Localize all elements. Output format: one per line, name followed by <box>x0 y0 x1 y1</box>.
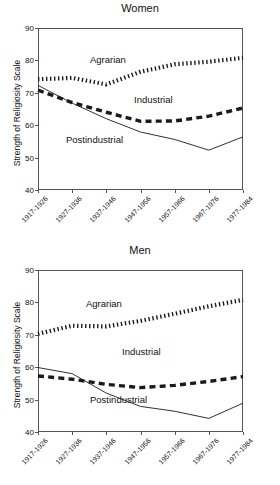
chart-panel-women: Women Strength of Religiosity Scale 9080… <box>0 0 280 242</box>
series-label-industrial-women: Industrial <box>134 94 173 105</box>
chart-panel-men: Men Strength of Religiosity Scale 908070… <box>0 242 280 485</box>
x-tick-label: 1977-1984 <box>225 437 254 466</box>
y-tick-label: 90 <box>25 24 34 33</box>
x-tick-label: 1977-1984 <box>225 195 254 224</box>
x-tick-mark <box>106 190 107 193</box>
x-tick-mark <box>72 190 73 193</box>
y-tick-label: 60 <box>25 363 34 372</box>
plot-area-women: 908070605040 1917-19261927-19361937-1946… <box>38 28 243 190</box>
y-tick-label: 80 <box>25 298 34 307</box>
x-tick-label: 1957-1966 <box>157 195 186 224</box>
x-tick-mark <box>106 432 107 435</box>
y-tick-label: 50 <box>25 395 34 404</box>
x-tick-mark <box>175 190 176 193</box>
series-label-agrarian-men: Agrarian <box>86 298 122 309</box>
x-tick-label: 1917-1926 <box>20 195 49 224</box>
x-tick-label: 1937-1946 <box>89 437 118 466</box>
x-tick-mark <box>209 190 210 193</box>
x-tick-label: 1947-1956 <box>123 437 152 466</box>
x-tick-mark <box>209 432 210 435</box>
plot-area-men: 908070605040 1917-19261927-19361937-1946… <box>38 270 243 432</box>
series-label-agrarian-women: Agrarian <box>90 54 126 65</box>
y-tick-label: 50 <box>25 153 34 162</box>
y-tick-label: 40 <box>25 186 34 195</box>
x-tick-mark <box>141 190 142 193</box>
y-tick-label: 70 <box>25 330 34 339</box>
series-label-industrial-men: Industrial <box>122 346 161 357</box>
x-tick-label: 1927-1936 <box>54 437 83 466</box>
chart-title-men: Men <box>0 244 280 256</box>
x-tick-mark <box>38 432 39 435</box>
y-tick-label: 60 <box>25 121 34 130</box>
x-tick-mark <box>243 190 244 193</box>
y-axis-label-men: Strength of Religiosity Scale <box>12 280 22 430</box>
x-tick-label: 1917-1926 <box>20 437 49 466</box>
x-tick-label: 1947-1956 <box>123 195 152 224</box>
y-tick-label: 90 <box>25 266 34 275</box>
y-tick-label: 70 <box>25 88 34 97</box>
x-tick-mark <box>141 432 142 435</box>
x-tick-label: 1967-1976 <box>191 195 220 224</box>
x-tick-mark <box>243 432 244 435</box>
y-tick-label: 80 <box>25 56 34 65</box>
series-agrarian <box>38 300 243 334</box>
series-label-postindustrial-men: Postindustrial <box>90 394 147 405</box>
x-tick-label: 1967-1976 <box>191 437 220 466</box>
series-postindustrial <box>38 368 243 419</box>
y-tick-label: 40 <box>25 428 34 437</box>
chart-title-women: Women <box>0 2 280 14</box>
x-tick-label: 1927-1936 <box>54 195 83 224</box>
x-tick-mark <box>175 432 176 435</box>
x-tick-mark <box>38 190 39 193</box>
y-axis-label-women: Strength of Religiosity Scale <box>12 38 22 188</box>
x-tick-label: 1957-1966 <box>157 437 186 466</box>
series-agrarian <box>38 58 243 85</box>
x-tick-mark <box>72 432 73 435</box>
series-industrial <box>38 376 243 388</box>
series-lines-women <box>38 28 243 190</box>
x-tick-label: 1937-1946 <box>89 195 118 224</box>
series-label-postindustrial-women: Postindustrial <box>66 134 123 145</box>
